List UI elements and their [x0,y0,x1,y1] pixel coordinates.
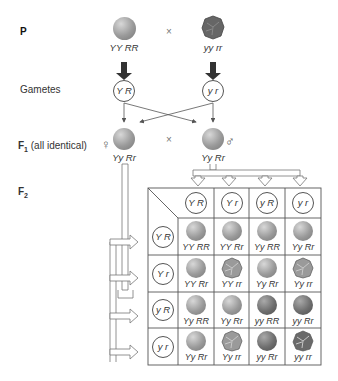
label-gametes: Gametes [20,84,61,95]
cross-symbol-f1: × [166,134,172,145]
parent-right-genotype: yy rr [193,42,233,53]
cell-genotype: YY Rr [178,279,214,289]
col-header-1: Y R [185,192,207,214]
punnett-cell: YY Rr [214,218,249,255]
gamete-left: Y R [113,80,135,102]
punnett-cell: yy Rr [249,328,285,365]
pea-yellow-round-icon [113,17,136,40]
pea-green-round-icon [257,331,277,351]
row-header-1: Y R [152,226,174,248]
row-header-2: Y r [152,263,174,285]
cross-symbol: × [166,26,172,37]
col-header-3: y R [256,192,278,214]
col-header-4: y r [292,192,314,214]
female-symbol: ♀ [101,137,111,152]
punnett-cell: Yy Rr [285,218,321,255]
punnett-cell: Yy Rr [249,255,285,292]
gamete-right: y r [202,80,224,102]
cell-genotype: YY rr [214,279,249,289]
arrow-down-thick-left [116,62,132,80]
row-header-4: y r [152,336,174,358]
punnett-cell: yy Rr [285,292,321,329]
punnett-cell: YY rr [214,255,249,292]
cell-genotype: Yy Rr [214,316,249,326]
pea-yellow-round-icon [186,295,206,315]
parent-left-genotype: YY RR [104,42,144,53]
cell-genotype: Yy Rr [249,279,285,289]
label-p: P [20,26,27,37]
male-symbol: ♂ [225,134,235,149]
pea-f1-male-icon [202,128,224,150]
pea-yellow-round-icon [293,221,313,241]
row-header-3: y R [152,299,174,321]
pea-yellow-wrinkled-icon [221,257,243,279]
cell-genotype: Yy RR [249,242,285,252]
punnett-cell: Yy RR [178,292,214,329]
punnett-cell: Yy Rr [178,328,214,365]
pea-green-wrinkled-icon [292,330,314,352]
pea-yellow-round-icon [186,221,206,241]
pea-yellow-round-icon [186,331,206,351]
punnett-cell: Yy rr [214,328,249,365]
cell-genotype: Yy rr [214,352,249,362]
cell-genotype: YY RR [178,242,214,252]
label-f1: F1 (all identical) [18,140,87,153]
cell-genotype: Yy Rr [285,242,321,252]
pea-yellow-round-icon [222,295,242,315]
arrow-down-thick-right [205,62,221,80]
pea-green-wrinkled-icon [201,15,225,40]
pea-yellow-wrinkled-icon [292,257,314,279]
cell-genotype: Yy RR [178,316,214,326]
pea-green-round-icon [257,295,277,315]
cell-genotype: Yy Rr [178,352,214,362]
cell-genotype: yy rr [285,352,321,362]
pea-yellow-round-icon [186,258,206,278]
cell-genotype: Yy rr [285,279,321,289]
f1-right-genotype: Yy Rr [193,152,233,163]
f1-left-genotype: Yy Rr [104,152,144,163]
col-header-2: Y r [221,192,243,214]
punnett-cell: YY Rr [178,255,214,292]
punnett-cell: yy RR [249,292,285,329]
punnett-cell: yy rr [285,328,321,365]
cell-genotype: yy Rr [285,316,321,326]
pea-yellow-round-icon [222,221,242,241]
punnett-cell: YY RR [178,218,214,255]
label-f2: F2 [18,186,28,199]
cell-genotype: YY Rr [214,242,249,252]
cell-genotype: yy RR [249,316,285,326]
cell-genotype: yy Rr [249,352,285,362]
pea-yellow-round-icon [257,258,277,278]
pea-yellow-wrinkled-icon [221,330,243,352]
punnett-cell: Yy rr [285,255,321,292]
pea-yellow-round-icon [257,221,277,241]
pea-f1-female-icon [113,128,135,150]
punnett-cell: Yy RR [249,218,285,255]
punnett-cell: Yy Rr [214,292,249,329]
pea-green-round-icon [293,295,313,315]
